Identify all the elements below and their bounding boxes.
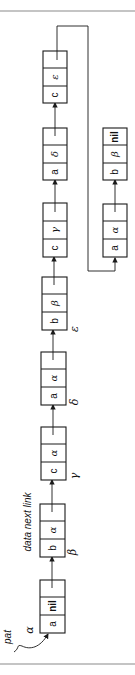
second-node-beta-link: nil — [109, 131, 120, 143]
node-6-data: c — [49, 246, 60, 251]
node-8-next: ε — [49, 74, 60, 79]
node-8-data: c — [49, 93, 60, 98]
node-epsilon: b β — [42, 277, 67, 330]
node-beta: b α — [40, 504, 65, 557]
second-node-beta-next: β — [109, 151, 120, 158]
node-delta-next: α — [48, 374, 59, 381]
node-8: c ε — [43, 51, 67, 103]
address-label-epsilon: ε — [68, 326, 81, 332]
node-gamma: c α — [41, 427, 66, 480]
pointer-arrow — [14, 634, 48, 652]
node-6-next: γ — [49, 227, 60, 233]
node-gamma-data: c — [48, 469, 59, 474]
node-7-next: δ — [49, 151, 60, 157]
node-alpha: a nil — [40, 580, 65, 633]
address-label-alpha: α — [23, 626, 36, 634]
second-node-beta-data: b — [109, 169, 120, 175]
node-epsilon-data: b — [49, 318, 60, 324]
node-alpha-next: nil — [47, 600, 58, 612]
field-header: data next link — [22, 492, 33, 552]
second-node-beta: b β nil — [103, 128, 127, 180]
pointer-label: pat — [2, 629, 13, 645]
node-delta-data: a — [48, 393, 59, 399]
address-label-beta: β — [66, 549, 79, 556]
linked-list-diagram: a nil b α c α a α b β — [0, 0, 135, 675]
node-alpha-data: a — [47, 621, 58, 627]
node-7-data: a — [49, 169, 60, 175]
address-label-gamma: γ — [68, 472, 81, 479]
node-beta-data: b — [47, 545, 58, 551]
second-node-alpha-data: a — [109, 245, 120, 251]
node-epsilon-next: β — [49, 300, 60, 307]
second-node-alpha-next: α — [109, 226, 120, 233]
node-beta-next: α — [47, 526, 58, 533]
node-gamma-next: α — [48, 449, 59, 456]
address-label-delta: δ — [68, 398, 81, 405]
node-delta: a α — [41, 352, 66, 405]
